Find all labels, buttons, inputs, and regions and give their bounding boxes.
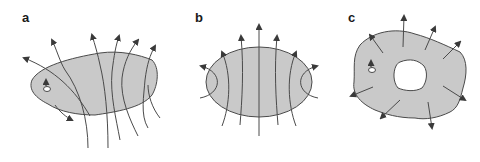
panel-label-b: b — [195, 10, 203, 25]
panel-a-diagram — [24, 35, 160, 148]
irregular-body-a — [31, 52, 157, 115]
panel-label-a: a — [22, 10, 29, 25]
panel-b-diagram — [200, 25, 318, 136]
annular-body-c — [354, 31, 466, 119]
panel-c-diagram — [351, 16, 466, 128]
small-charge-c — [369, 68, 376, 73]
figure-canvas — [0, 0, 480, 162]
small-charge-a — [44, 87, 51, 92]
panel-label-c: c — [348, 10, 355, 25]
